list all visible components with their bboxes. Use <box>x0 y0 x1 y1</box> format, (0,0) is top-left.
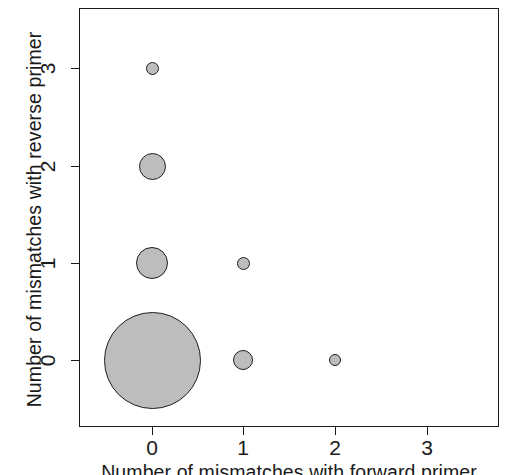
y-tick-0 <box>71 360 79 361</box>
x-tick-1 <box>243 427 244 435</box>
x-tick-0 <box>152 427 153 435</box>
x-tick-label-1: 1 <box>223 437 263 458</box>
x-tick-label-0: 0 <box>132 437 172 458</box>
x-tick-label-2: 2 <box>315 437 355 458</box>
chart-page: 0123 0123 Number of mismatches with reve… <box>0 0 506 475</box>
y-tick-1 <box>71 263 79 264</box>
x-tick-2 <box>335 427 336 435</box>
y-tick-3 <box>71 68 79 69</box>
plot-frame <box>79 8 499 427</box>
x-tick-label-3: 3 <box>407 437 447 458</box>
y-tick-2 <box>71 166 79 167</box>
x-axis-title: Number of mismatches with forward primer <box>79 461 499 475</box>
x-tick-3 <box>427 427 428 435</box>
y-axis-title: Number of mismatches with reverse primer <box>23 10 46 430</box>
